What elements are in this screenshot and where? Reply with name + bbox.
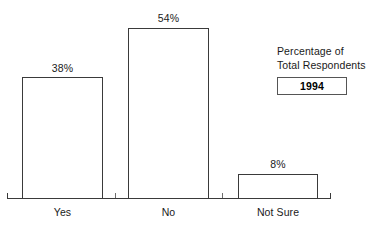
- category-label-no: No: [128, 206, 209, 218]
- legend-year-box: 1994: [277, 77, 347, 95]
- plot-area: 38% 54% 8% Yes No Not Sure Percentage of…: [0, 0, 392, 228]
- x-axis-tick-separator-1: [115, 193, 116, 198]
- category-label-not-sure: Not Sure: [238, 206, 318, 218]
- bar-not-sure: [238, 174, 318, 199]
- bar-no: [128, 28, 209, 199]
- value-label-not-sure: 8%: [238, 158, 318, 170]
- x-axis-left-endcap: [7, 193, 8, 199]
- bar-yes: [22, 77, 103, 199]
- category-label-yes: Yes: [22, 206, 103, 218]
- x-axis-right-endcap: [330, 193, 331, 199]
- x-axis-line: [7, 198, 331, 199]
- legend-year-label: 1994: [300, 80, 324, 92]
- legend-title-line-2: Total Respondents: [277, 58, 366, 72]
- x-axis-tick-separator-2: [222, 193, 223, 198]
- bar-chart: 38% 54% 8% Yes No Not Sure Percentage of…: [0, 0, 392, 228]
- value-label-yes: 38%: [22, 62, 103, 74]
- legend: Percentage of Total Respondents 1994: [277, 44, 366, 95]
- legend-title-line-1: Percentage of: [277, 44, 366, 58]
- value-label-no: 54%: [128, 12, 209, 24]
